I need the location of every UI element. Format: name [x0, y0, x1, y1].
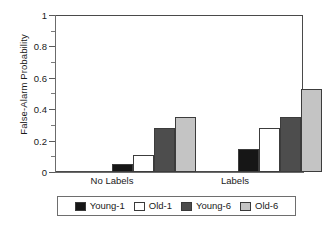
y-tick-label-08: 0.8: [5, 42, 47, 52]
bar-old-6-no-labels: [175, 117, 196, 172]
legend-item-old-6: Old-6: [240, 201, 278, 211]
bar-young-1-no-labels: [112, 164, 133, 172]
bar-young-6-no-labels: [154, 128, 175, 172]
y-tick-label-1: 1: [5, 11, 47, 21]
legend-item-old-1: Old-1: [134, 201, 172, 211]
legend-swatch-icon-young-1: [75, 202, 86, 211]
y-axis-tick-labels: 1 0.8 0.6 0.4 0.2 0: [0, 0, 47, 180]
x-axis-spine: [55, 172, 304, 173]
bar-old-1-labels: [259, 128, 280, 172]
bars-layer: [56, 16, 302, 172]
bar-young-1-labels: [238, 149, 259, 172]
legend: Young-1Old-1Young-6Old-6: [57, 196, 296, 216]
y-tick-label-0: 0: [5, 168, 47, 178]
bar-old-1-no-labels: [133, 155, 154, 172]
legend-swatch-icon-young-6: [181, 202, 192, 211]
legend-swatch-icon-old-1: [134, 202, 145, 211]
x-tick-label-no-labels: No Labels: [52, 175, 172, 186]
legend-label: Young-6: [196, 201, 231, 211]
bar-young-6-labels: [280, 117, 301, 172]
legend-item-young-6: Young-6: [181, 201, 231, 211]
legend-label: Young-1: [90, 201, 125, 211]
legend-label: Old-1: [149, 201, 172, 211]
x-tick-label-labels: Labels: [180, 175, 290, 186]
legend-item-young-1: Young-1: [75, 201, 125, 211]
y-tick-label-06: 0.6: [5, 74, 47, 84]
legend-label: Old-6: [255, 201, 278, 211]
bar-old-6-labels: [301, 89, 322, 172]
legend-swatch-icon-old-6: [240, 202, 251, 211]
y-tick-label-04: 0.4: [5, 105, 47, 115]
y-tick-label-02: 0.2: [5, 137, 47, 147]
